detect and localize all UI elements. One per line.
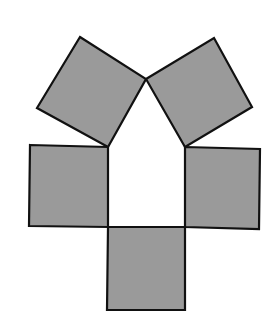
bottom-square: [107, 227, 185, 310]
top-right-tilted-square: [146, 38, 252, 147]
top-left-tilted-square: [37, 37, 146, 147]
diagram-canvas: [0, 0, 277, 328]
middle-left-square: [29, 145, 108, 227]
middle-right-square: [185, 147, 260, 229]
